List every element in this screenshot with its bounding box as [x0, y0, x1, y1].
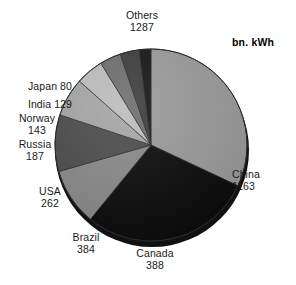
slice-label-norway: Norway 143 [8, 112, 66, 136]
slice-label-india-text: India 129 [6, 98, 72, 110]
slice-label-usa-value: 262 [24, 197, 76, 209]
slice-label-brazil-value: 384 [57, 243, 115, 255]
slice-label-japan: Japan 80 [6, 80, 72, 92]
slice-label-others: Others 1287 [106, 9, 178, 33]
slice-label-canada-value: 388 [122, 259, 188, 271]
slice-label-china-name: China [232, 168, 292, 180]
slice-label-brazil-name: Brazil [57, 231, 115, 243]
slice-label-norway-name: Norway [8, 112, 66, 124]
slice-label-others-name: Others [106, 9, 178, 21]
slice-label-canada: Canada 388 [122, 247, 188, 271]
slice-label-russia-name: Russia [8, 138, 62, 150]
slice-label-russia: Russia 187 [8, 138, 62, 162]
slice-label-canada-name: Canada [122, 247, 188, 259]
slice-label-usa: USA 262 [24, 185, 76, 209]
slice-label-norway-value: 143 [8, 124, 66, 136]
pie-slices-group [55, 49, 247, 241]
slice-label-china-value: 1163 [232, 180, 292, 192]
slice-label-usa-name: USA [24, 185, 76, 197]
slice-label-others-value: 1287 [106, 21, 178, 33]
pie-chart-figure: bn. kWh Others 1287 China 1163 Canada 38… [0, 0, 296, 285]
slice-label-japan-text: Japan 80 [6, 80, 72, 92]
unit-label: bn. kWh [232, 36, 274, 48]
slice-label-china: China 1163 [232, 168, 292, 192]
slice-label-brazil: Brazil 384 [57, 231, 115, 255]
slice-label-russia-value: 187 [8, 150, 62, 162]
slice-label-india: India 129 [6, 98, 72, 110]
